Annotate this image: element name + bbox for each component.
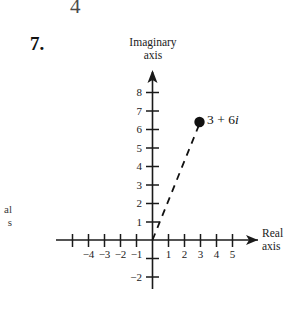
point-label-imaginary-unit: i: [235, 112, 239, 127]
real-axis-label: Real axis: [262, 227, 304, 253]
imaginary-axis-label: Imaginary axis: [112, 36, 194, 62]
imaginary-axis-label-line-2: axis: [112, 49, 194, 62]
y-tick-label-8: 8: [124, 87, 142, 98]
y-tick-label-3: 3: [124, 180, 142, 191]
x-tick-label--4: −4: [81, 249, 97, 260]
x-tick-label-4: 4: [209, 249, 225, 260]
y-tick-label-4: 4: [124, 161, 142, 172]
x-tick-label--3: −3: [97, 249, 113, 260]
y-tick-label-2: 2: [124, 198, 142, 209]
y-tick-label-5: 5: [124, 143, 142, 154]
x-tick-label-3: 3: [193, 249, 209, 260]
x-tick-label-5: 5: [225, 249, 241, 260]
y-tick-label-6: 6: [124, 124, 142, 135]
x-tick-label--1: −1: [129, 249, 145, 260]
data-point-3-plus-6i: [194, 117, 204, 127]
point-annotation-3-plus-6i: 3 + 6i: [207, 112, 239, 127]
complex-plane-figure: Imaginary axis Real axis −4 −3 −2 −1 1 2…: [0, 0, 305, 314]
y-tick-label-1: 1: [124, 217, 142, 228]
origin-to-point-dashed-line: [153, 125, 200, 240]
point-label-real-part: 3: [207, 112, 214, 127]
x-tick-label--2: −2: [113, 249, 129, 260]
imaginary-axis-label-line-1: Imaginary: [112, 36, 194, 49]
y-tick-label-7: 7: [124, 106, 142, 117]
x-tick-label-1: 1: [161, 249, 177, 260]
point-label-operator: +: [217, 112, 225, 127]
real-axis-label-line-2: axis: [262, 240, 304, 253]
worksheet-page: 4 7. al s: [0, 0, 305, 314]
point-label-imaginary-part: 6: [228, 112, 235, 127]
y-tick-label--2: −2: [118, 272, 142, 283]
x-tick-label-2: 2: [177, 249, 193, 260]
real-axis-label-line-1: Real: [262, 227, 304, 240]
